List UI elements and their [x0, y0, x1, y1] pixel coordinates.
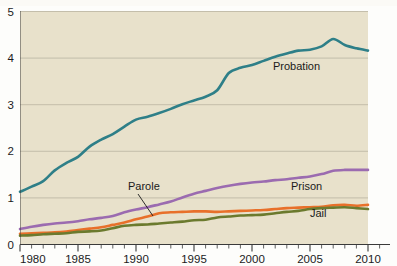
x-axis-major-ticks	[20, 245, 368, 252]
y-tick-label-5: 5	[8, 6, 14, 18]
x-axis-tick-labels: 1980198519901995200020052010	[20, 253, 381, 265]
x-tick-label-2005: 2005	[297, 253, 323, 265]
series-label-parole: Parole	[128, 180, 160, 192]
x-tick-label-1995: 1995	[181, 253, 207, 265]
x-tick-label-2010: 2010	[355, 253, 381, 265]
x-tick-label-1985: 1985	[65, 253, 91, 265]
y-tick-label-2: 2	[8, 145, 14, 157]
x-axis-minor-ticks	[32, 245, 380, 249]
line-chart: ProbationParolePrisonJail 012345 1980198…	[0, 0, 397, 266]
y-tick-label-3: 3	[8, 99, 14, 111]
y-tick-label-4: 4	[8, 52, 15, 64]
y-tick-label-0: 0	[8, 239, 14, 251]
top-crop-strip	[0, 0, 397, 6]
series-label-jail: Jail	[310, 207, 327, 219]
chart-container: ProbationParolePrisonJail 012345 1980198…	[0, 0, 397, 266]
x-tick-label-2000: 2000	[239, 253, 265, 265]
y-axis-tick-labels: 012345	[8, 6, 15, 251]
x-tick-label-1990: 1990	[123, 253, 149, 265]
series-label-probation: Probation	[273, 60, 320, 72]
series-label-prison: Prison	[291, 180, 322, 192]
x-tick-label-1980: 1980	[20, 253, 46, 265]
y-tick-label-1: 1	[8, 192, 14, 204]
x-axis-group: 1980198519901995200020052010	[20, 245, 390, 266]
